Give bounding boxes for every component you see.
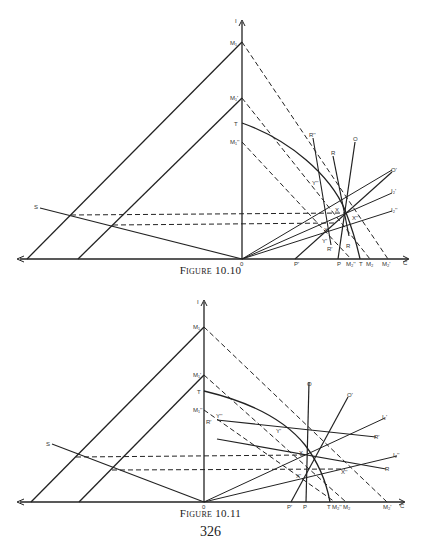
dashed-horizontal-upper bbox=[71, 213, 345, 215]
diagram-canvas: I M₁ M₁' T M₁'' S 0 C R'' R O O' I₂' I₂'… bbox=[0, 0, 421, 554]
label-x-prime: X' bbox=[296, 473, 301, 479]
label-i2-prime: I₂' bbox=[391, 188, 396, 194]
m1-line bbox=[31, 327, 204, 502]
r-prime-line bbox=[217, 420, 376, 437]
page-number: 326 bbox=[0, 524, 421, 540]
label-y-double-prime: Y'' bbox=[312, 180, 318, 186]
label-y-double-prime: Y'' bbox=[216, 413, 222, 419]
s-line bbox=[40, 208, 242, 259]
label-t: T bbox=[197, 389, 201, 395]
m1p-line bbox=[79, 375, 204, 502]
label-r-prime-left: R' bbox=[206, 419, 211, 425]
label-x-double-prime: X'' bbox=[341, 469, 347, 475]
label-x: X bbox=[299, 450, 303, 456]
dashed-horizontal-lower bbox=[112, 469, 345, 470]
label-m1p: M₁' bbox=[230, 95, 238, 101]
label-m1: M₁ bbox=[193, 324, 200, 330]
label-m1pp: M₁'' bbox=[193, 407, 202, 413]
ray-i2pp bbox=[242, 211, 392, 259]
label-r: R bbox=[385, 466, 390, 472]
figure-10-11-labels: I M₁ M₁' T M₁'' S 0 C O O' I₂' I₂'' Y'' … bbox=[46, 299, 405, 510]
label-m1: M₁ bbox=[230, 40, 237, 46]
label-m1p: M₁' bbox=[193, 372, 201, 378]
figure-10-11-caption: Figure 10.11 bbox=[0, 507, 421, 519]
dashed-m1p-m2 bbox=[242, 98, 370, 259]
label-r-prime-right: R' bbox=[374, 434, 379, 440]
label-x: X bbox=[335, 207, 339, 213]
label-y-prime: Y' bbox=[322, 238, 327, 244]
label-i2-double-prime: I₂'' bbox=[393, 452, 399, 458]
label-r-low: R bbox=[346, 243, 351, 249]
label-t: T bbox=[234, 121, 238, 127]
label-o-prime: O' bbox=[347, 392, 353, 398]
label-o: O bbox=[353, 136, 358, 142]
m1p-line bbox=[78, 98, 242, 259]
label-i-axis: I bbox=[235, 18, 237, 24]
label-r-double-prime: R'' bbox=[309, 132, 316, 138]
figure-10-10-caption: Figure 10.10 bbox=[0, 264, 421, 276]
label-r: R bbox=[331, 150, 336, 156]
label-m1pp: M₁'' bbox=[230, 139, 239, 145]
figure-10-10 bbox=[17, 20, 409, 262]
label-i2-double-prime: I₂'' bbox=[391, 207, 397, 213]
label-x-prime: X' bbox=[324, 227, 329, 233]
label-x-double-prime: X'' bbox=[352, 215, 358, 221]
ray-i2p bbox=[204, 418, 385, 502]
label-r-prime-low: R' bbox=[327, 246, 332, 252]
label-i2-prime: I₂' bbox=[382, 414, 387, 420]
label-s: S bbox=[46, 441, 50, 447]
label-y-prime: Y' bbox=[276, 428, 281, 434]
label-i-axis: I bbox=[197, 299, 199, 305]
label-o-prime: O' bbox=[391, 167, 397, 173]
label-o: O bbox=[307, 381, 312, 387]
m1-line bbox=[27, 42, 242, 259]
label-s: S bbox=[34, 204, 38, 210]
ray-i2pp bbox=[204, 456, 397, 502]
ray-i2p bbox=[242, 193, 392, 259]
